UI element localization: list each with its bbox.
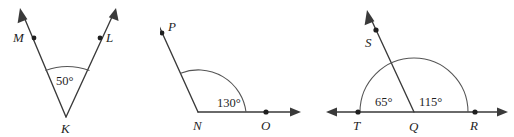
label-m: M	[12, 30, 25, 45]
label-n: N	[192, 118, 203, 133]
label-r: R	[469, 118, 478, 133]
ray-np	[160, 15, 198, 112]
point-l-dot	[98, 36, 103, 41]
diagram-angle-pno: P N O 130°	[160, 0, 320, 137]
label-q: Q	[409, 119, 419, 134]
point-r-dot	[472, 109, 477, 114]
label-angle-50: 50°	[56, 74, 74, 88]
point-o-dot	[263, 109, 268, 114]
label-k: K	[60, 121, 71, 136]
label-t: T	[353, 118, 361, 133]
label-p: P	[167, 19, 176, 34]
arrowhead-no-icon	[290, 108, 301, 117]
point-p-dot	[160, 31, 164, 36]
angle-arc-50	[46, 67, 90, 71]
label-l: L	[105, 30, 113, 45]
geometry-figure-set: M L K 50° P N O 130°	[0, 0, 514, 137]
point-m-dot	[32, 36, 37, 41]
diagram-angle-tqs-sqr: S T Q R 65° 115°	[320, 0, 514, 137]
label-angle-115: 115°	[419, 95, 442, 109]
label-o: O	[261, 118, 271, 133]
point-s-dot	[373, 27, 378, 32]
diagram-angle-mkl: M L K 50°	[0, 0, 160, 137]
arrowhead-kl-icon	[109, 8, 119, 21]
label-angle-65: 65°	[375, 95, 393, 109]
label-angle-130: 130°	[217, 96, 241, 110]
arrowhead-left-icon	[326, 108, 337, 117]
arrowhead-right-icon	[497, 108, 508, 117]
point-t-dot	[355, 109, 360, 114]
label-s: S	[365, 35, 372, 50]
